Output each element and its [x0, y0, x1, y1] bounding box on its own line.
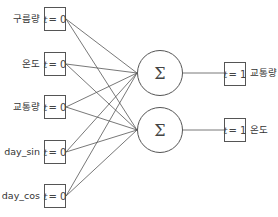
connection-lines: [0, 0, 278, 217]
time-var: t: [44, 191, 48, 202]
time-value: = 0: [49, 147, 67, 158]
time-var: t: [44, 147, 48, 158]
output-box-traffic: t= 1: [224, 62, 246, 86]
time-var: t: [44, 59, 48, 70]
input-label-day-cos: day_cos: [0, 191, 40, 201]
input-label-traffic: 교통량: [0, 102, 40, 112]
time-value: = 0: [49, 59, 67, 70]
time-value: = 0: [49, 102, 67, 113]
input-label-day-sin: day_sin: [0, 147, 40, 157]
time-var: t: [44, 102, 48, 113]
sigma-icon: Σ: [154, 121, 165, 140]
sum-node-1: Σ: [137, 50, 183, 96]
input-box-traffic: t= 0: [44, 95, 66, 119]
time-value: = 1: [229, 125, 247, 136]
output-label-traffic: 교통량: [250, 68, 277, 78]
time-value: = 0: [49, 191, 67, 202]
time-var: t: [224, 69, 228, 80]
input-box-temperature: t= 0: [44, 52, 66, 76]
sum-node-2: Σ: [137, 107, 183, 153]
input-label-temperature: 온도: [0, 59, 40, 69]
sigma-icon: Σ: [154, 64, 165, 83]
output-box-temperature: t= 1: [224, 118, 246, 142]
input-box-day-sin: t= 0: [44, 140, 66, 164]
time-var: t: [44, 14, 48, 25]
time-value: = 0: [49, 14, 67, 25]
input-box-cloud: t= 0: [44, 7, 66, 31]
output-label-temperature: 온도: [250, 125, 268, 135]
time-value: = 1: [229, 69, 247, 80]
time-var: t: [224, 125, 228, 136]
input-box-day-cos: t= 0: [44, 184, 66, 208]
input-label-cloud: 구름량: [0, 14, 40, 24]
